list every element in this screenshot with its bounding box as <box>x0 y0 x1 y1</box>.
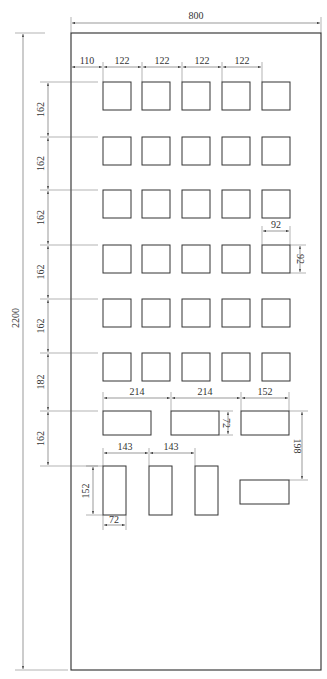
overall-height-dimension: 2200 <box>10 33 68 670</box>
tall-width-label: 72 <box>109 514 119 525</box>
wide-pitch-label-2: 214 <box>198 386 213 397</box>
overall-width-dimension: 800 <box>71 10 321 33</box>
square-cutout-r3-c2 <box>142 190 170 218</box>
square-cutout-r2-c4 <box>222 137 250 165</box>
square-cutout-r6-c2 <box>142 353 170 381</box>
tall-cutouts: 143 143 152 72 <box>80 441 218 530</box>
row-pitch-dimensions: 162162162162162182162 <box>35 82 98 466</box>
square-cutout-r5-c2 <box>142 299 170 327</box>
square-cutout-r1-c3 <box>182 82 210 110</box>
tall-height-label: 152 <box>80 484 91 499</box>
square-cutout-r6-c5 <box>262 353 290 381</box>
overall-height-label: 2200 <box>10 308 21 328</box>
square-cutout-r5-c3 <box>182 299 210 327</box>
wide-height-label: 72 <box>221 418 232 428</box>
side-offset-dimension: 198 <box>289 411 308 480</box>
row-pitch-label-7: 162 <box>35 431 46 446</box>
wide-pitch-label-1: 214 <box>130 386 145 397</box>
row-pitch-label-2: 162 <box>35 156 46 171</box>
square-cutout-r2-c1 <box>103 137 131 165</box>
square-cutout-r1-c1 <box>103 82 131 110</box>
col-pitch-label-1: 122 <box>115 55 130 66</box>
square-cutout-r6-c1 <box>103 353 131 381</box>
wide-cutout-3 <box>241 411 289 435</box>
square-cutout-r3-c5 <box>262 190 290 218</box>
tall-cutout-2 <box>149 466 172 515</box>
square-cutout-r4-c2 <box>142 245 170 273</box>
square-cutout-r6-c4 <box>222 353 250 381</box>
technical-drawing: 800 2200 110 122 122 122 122 16216216216… <box>0 0 327 679</box>
wide-cutout-1 <box>103 411 151 435</box>
square-cutout-r5-c4 <box>222 299 250 327</box>
tall-pitch-label-2: 143 <box>164 441 179 452</box>
row-pitch-label-4: 162 <box>35 265 46 280</box>
square-cutout-r5-c1 <box>103 299 131 327</box>
side-offset-label: 198 <box>292 439 303 454</box>
square-cutout-r2-c5 <box>262 137 290 165</box>
offset-label: 110 <box>80 55 95 66</box>
row-pitch-label-5: 162 <box>35 319 46 334</box>
square-cutout-r4-c1 <box>103 245 131 273</box>
square-cutout-r2-c3 <box>182 137 210 165</box>
square-cutout-r3-c1 <box>103 190 131 218</box>
square-cutout-r4-c3 <box>182 245 210 273</box>
square-cutout-r3-c3 <box>182 190 210 218</box>
column-pitch-dimensions: 110 122 122 122 122 <box>72 55 262 82</box>
square-cutout-r1-c4 <box>222 82 250 110</box>
square-cutout-r1-c2 <box>142 82 170 110</box>
row-pitch-label-1: 162 <box>35 102 46 117</box>
col-pitch-label-4: 122 <box>235 55 250 66</box>
square-cutout-r4-c4 <box>222 245 250 273</box>
wide-cutout-2 <box>171 411 219 435</box>
square-width-label: 92 <box>271 219 281 230</box>
square-cutout-r2-c2 <box>142 137 170 165</box>
square-cutout-r6-c3 <box>182 353 210 381</box>
square-cutout-r3-c4 <box>222 190 250 218</box>
overall-width-label: 800 <box>189 10 204 21</box>
side-cutout <box>240 480 289 504</box>
tall-pitch-label-1: 143 <box>118 441 133 452</box>
wide-pitch-label-3: 152 <box>258 386 273 397</box>
square-cutout-r5-c5 <box>262 299 290 327</box>
row-pitch-label-3: 162 <box>35 210 46 225</box>
row-pitch-label-6: 182 <box>35 375 46 390</box>
panel-outline <box>71 33 321 670</box>
col-pitch-label-3: 122 <box>195 55 210 66</box>
square-height-label: 92 <box>295 254 306 264</box>
tall-cutout-3 <box>195 466 218 515</box>
col-pitch-label-2: 122 <box>155 55 170 66</box>
square-cutout-r4-c5 <box>262 245 290 273</box>
wide-cutouts: 214 214 152 72 <box>103 386 289 435</box>
tall-cutout-1 <box>103 466 126 515</box>
square-cutout-r1-c5 <box>262 82 290 110</box>
